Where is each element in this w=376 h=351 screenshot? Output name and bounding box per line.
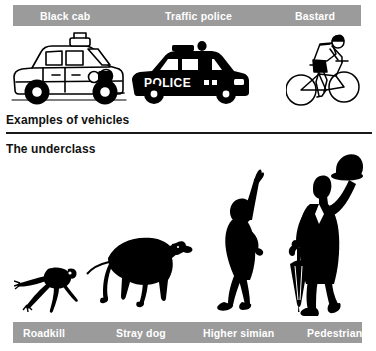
heading-the-underclass: The underclass — [6, 142, 95, 156]
higher-simian-silhouette — [212, 168, 274, 320]
roadkill-frog-silhouette — [14, 255, 80, 317]
diagram-page: Black cab Traffic police Bastard — [0, 0, 376, 351]
label-traffic-police: Traffic police — [165, 10, 232, 21]
top-label-bar: Black cab Traffic police Bastard — [13, 5, 361, 26]
cyclist-illustration — [286, 30, 360, 108]
heading-examples-of-vehicles: Examples of vehicles — [6, 113, 129, 127]
label-higher-simian: Higher simian — [203, 327, 274, 338]
label-bastard: Bastard — [295, 10, 335, 21]
label-black-cab: Black cab — [40, 10, 90, 21]
label-pedestrian: Pedestrian — [307, 327, 362, 338]
label-roadkill: Roadkill — [23, 327, 65, 338]
label-stray-dog: Stray dog — [116, 327, 166, 338]
police-car-illustration: POLICE — [126, 37, 254, 107]
stray-dog-silhouette — [86, 222, 196, 318]
black-cab-illustration — [10, 30, 128, 108]
section-divider — [6, 132, 372, 134]
pedestrian-silhouette — [286, 152, 368, 320]
bottom-label-bar: Roadkill Stray dog Higher simian Pedestr… — [13, 322, 362, 343]
